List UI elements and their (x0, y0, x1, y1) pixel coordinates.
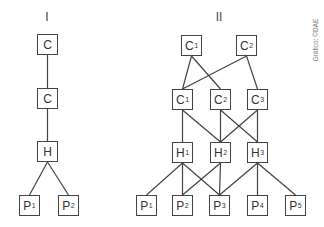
atom-letter: H (176, 146, 185, 160)
atom-subscript: 2 (249, 42, 253, 49)
atom-subscript: 2 (185, 202, 189, 209)
atom-letter: H (43, 145, 52, 159)
atom-letter: P (62, 199, 70, 213)
atom-node-h2: H2 (210, 142, 231, 163)
diagram-label-2: II (216, 10, 223, 24)
atom-node-p2: P2 (58, 195, 79, 216)
atom-node-c_top: C (37, 34, 58, 55)
atom-node-h: H (37, 141, 58, 162)
atom-node-mc2: C2 (210, 89, 231, 110)
atom-node-c_mid: C (37, 88, 58, 109)
bond-h3-p3 (220, 163, 258, 195)
atom-letter: P (251, 199, 259, 213)
atom-letter: P (176, 199, 184, 213)
atom-node-tc2: C2 (236, 35, 257, 56)
atom-subscript: 1 (149, 202, 153, 209)
bond-h3-p5 (258, 163, 296, 195)
atom-subscript: 3 (260, 96, 264, 103)
atom-node-p1: P1 (136, 195, 157, 216)
atom-node-p5: P5 (285, 195, 306, 216)
atom-letter: C (240, 39, 249, 53)
atom-letter: C (214, 93, 223, 107)
bond-h2-p3 (220, 163, 221, 195)
bond-h1-p1 (147, 163, 183, 195)
bond-h-p1 (30, 162, 48, 195)
bond-h-p2 (48, 162, 69, 195)
atom-letter: P (289, 199, 297, 213)
atom-letter: C (176, 93, 185, 107)
atom-letter: C (43, 38, 52, 52)
atom-node-tc1: C1 (181, 35, 202, 56)
atom-letter: C (43, 92, 52, 106)
atom-letter: C (185, 39, 194, 53)
atom-node-mc1: C1 (172, 89, 193, 110)
image-credit: Gráfico: ©DAE (312, 19, 319, 62)
bond-mc1-h2 (183, 110, 221, 142)
atom-letter: P (213, 199, 221, 213)
atom-subscript: 4 (260, 202, 264, 209)
atom-subscript: 1 (185, 96, 189, 103)
bond-tc2-mc1 (183, 56, 247, 89)
atom-node-h3: H3 (247, 142, 268, 163)
atom-node-h1: H1 (172, 142, 193, 163)
atom-letter: P (23, 199, 31, 213)
atom-subscript: 3 (222, 202, 226, 209)
atom-subscript: 1 (32, 202, 36, 209)
bond-tc1-mc1 (183, 56, 192, 89)
atom-node-p3: P3 (209, 195, 230, 216)
atom-letter: P (140, 199, 148, 213)
atom-subscript: 2 (71, 202, 75, 209)
atom-node-p1: P1 (19, 195, 40, 216)
molecular-structure-diagram: Gráfico: ©DAE ICCHP1P2IIC1C2C1C2C3H1H2H3… (0, 0, 324, 227)
atom-subscript: 1 (185, 149, 189, 156)
atom-letter: C (251, 93, 260, 107)
bond-tc2-mc3 (247, 56, 258, 89)
atom-node-p2: P2 (172, 195, 193, 216)
atom-letter: H (214, 146, 223, 160)
atom-subscript: 2 (223, 149, 227, 156)
bond-tc1-mc2 (192, 56, 221, 89)
atom-subscript: 3 (260, 149, 264, 156)
atom-subscript: 5 (298, 202, 302, 209)
atom-node-mc3: C3 (247, 89, 268, 110)
atom-subscript: 1 (194, 42, 198, 49)
atom-letter: H (251, 146, 260, 160)
diagram-label-1: I (45, 10, 48, 24)
atom-node-p4: P4 (247, 195, 268, 216)
atom-subscript: 2 (223, 96, 227, 103)
